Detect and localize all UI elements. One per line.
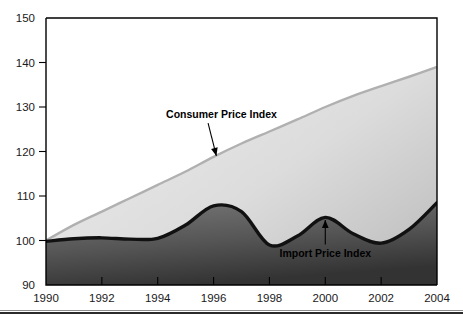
price-index-chart: 90100110120130140150 1990199219941996199…	[0, 0, 463, 320]
y-tick-label: 90	[22, 279, 35, 291]
x-tick-label: 1996	[201, 292, 227, 304]
y-tick-label: 100	[16, 235, 35, 247]
import-price-index-label: Import Price Index	[279, 247, 371, 259]
x-tick-label: 2000	[312, 292, 338, 304]
y-tick-label: 140	[16, 57, 35, 69]
x-tick-label: 1990	[33, 292, 59, 304]
x-tick-label: 1994	[145, 292, 171, 304]
x-tick-label: 2004	[424, 292, 450, 304]
y-tick-label: 130	[16, 101, 35, 113]
x-tick-label: 1998	[257, 292, 283, 304]
consumer-price-index-label: Consumer Price Index	[166, 108, 277, 120]
y-tick-label: 120	[16, 146, 35, 158]
footer-rule-top	[0, 310, 463, 311]
chart-canvas: 90100110120130140150 1990199219941996199…	[0, 0, 463, 320]
x-tick-label: 2002	[368, 292, 394, 304]
x-tick-label: 1992	[89, 292, 115, 304]
footer-rule-bottom	[0, 312, 463, 314]
y-tick-label: 150	[16, 12, 35, 24]
y-tick-label: 110	[17, 190, 35, 202]
